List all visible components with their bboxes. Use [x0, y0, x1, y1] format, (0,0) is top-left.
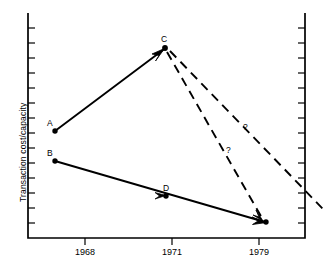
x-tick-label-1971: 1971: [162, 247, 182, 258]
x-tick-label-1968: 1968: [75, 247, 95, 258]
data-point-b: [52, 158, 57, 163]
series-c-projection-steep: [167, 52, 263, 221]
chart-figure: Transaction cost/capacity 1968 1971 1979…: [0, 0, 323, 268]
series-a-to-c: [55, 49, 165, 132]
data-point-c: [162, 45, 168, 51]
point-label-c: C: [161, 34, 167, 44]
x-tick-label-1979: 1979: [249, 247, 269, 258]
data-point-d: [163, 193, 168, 198]
y-axis-title: Transaction cost/capacity: [16, 2, 30, 202]
x-axis-ticks: [85, 238, 259, 245]
data-point-markers: [52, 45, 268, 225]
annotation-question-lower: ?: [226, 145, 231, 155]
point-label-d: D: [163, 183, 169, 193]
data-point-a: [52, 128, 57, 133]
point-label-b: B: [47, 148, 53, 158]
annotation-question-upper: ?: [243, 122, 248, 132]
data-point-1979: [263, 219, 268, 224]
point-label-a: A: [47, 118, 53, 128]
y-axis-ticks-right: [298, 28, 305, 223]
